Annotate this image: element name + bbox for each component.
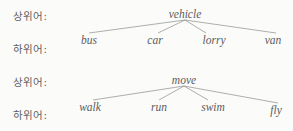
root-word-move: move	[172, 74, 196, 86]
tree-edges-move	[0, 66, 293, 131]
leaf-word-swim: swim	[201, 101, 225, 113]
leaf-word-van: van	[265, 34, 282, 46]
leaf-word-lorry: lorry	[203, 34, 226, 46]
leaf-word-fly: fly	[270, 104, 282, 116]
diagram-move-tree: 상위어: 하위어: move walk run swim fly	[0, 66, 293, 131]
leaf-word-walk: walk	[79, 101, 101, 113]
diagram-vehicle-tree: 상위어: 하위어: vehicle bus car lorry van	[0, 0, 293, 65]
leaf-word-run: run	[151, 101, 167, 113]
semantic-tree-figure: 상위어: 하위어: vehicle bus car lorry van 상위어:…	[0, 0, 293, 131]
leaf-word-bus: bus	[81, 34, 97, 46]
tree-edges-vehicle	[0, 0, 293, 65]
leaf-word-car: car	[147, 34, 162, 46]
root-word-vehicle: vehicle	[169, 8, 202, 20]
